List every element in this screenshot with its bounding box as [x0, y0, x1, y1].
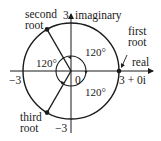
third-root-point — [45, 110, 50, 115]
angle-label-top: 120° — [85, 46, 106, 58]
first-root-point — [117, 69, 122, 74]
complex-plane-diagram: second root 3 imaginary first root real … — [0, 0, 161, 141]
imag-tick-3: 3 — [63, 9, 69, 21]
imaginary-axis-label: imaginary — [75, 9, 122, 22]
second-root-label-line2: root — [25, 19, 44, 31]
imag-tick-neg3: −3 — [55, 122, 67, 134]
radius-third-root — [47, 71, 71, 113]
first-root-value: 3 + 0i — [119, 74, 146, 86]
origin-label: 0 — [75, 74, 81, 86]
angle-label-bottom: 120° — [85, 86, 106, 98]
second-root-point — [45, 27, 50, 32]
angle-label-left: 120° — [36, 57, 57, 69]
first-root-pointer — [122, 55, 127, 66]
real-axis-label: real — [132, 56, 149, 68]
third-root-label-line2: root — [20, 122, 39, 134]
angle-arrow-3 — [85, 71, 88, 74]
real-tick-neg3: −3 — [9, 74, 21, 86]
first-root-label-line2: root — [128, 36, 147, 48]
